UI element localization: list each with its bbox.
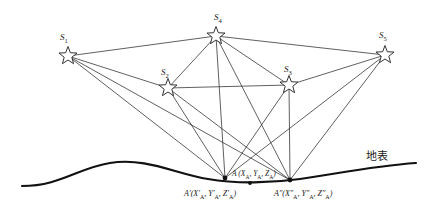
station-label-subscript: 3 [289, 69, 292, 76]
station-label-s3: S3 [284, 65, 292, 76]
gp-head: A″(X″ [274, 189, 293, 198]
station-label-subscript: 4 [219, 17, 222, 24]
sight-line [216, 36, 225, 178]
station-label-s4: S4 [214, 13, 222, 24]
sight-line [68, 36, 216, 56]
sight-line [168, 85, 289, 88]
terrain-curve [22, 162, 416, 186]
sight-line [216, 36, 385, 55]
gp-tail: ) [273, 169, 276, 178]
station-label-s2: S2 [161, 68, 169, 79]
station-label-subscript: 1 [65, 37, 68, 44]
sight-line [68, 56, 225, 178]
ground-point-marker-a-double-prime [288, 178, 293, 183]
ground-point-label-a-point: A (XA, YA, ZA) [232, 170, 276, 180]
station-label-s1: S1 [60, 33, 68, 44]
sight-line [168, 36, 216, 88]
gp-mid-y: , Y′ [204, 189, 214, 198]
gp-tail: ) [330, 189, 333, 198]
station-label-subscript: 5 [384, 35, 387, 42]
sight-line [289, 55, 385, 85]
gp-mid-z: , Z″ [314, 189, 326, 198]
diagram-canvas: S1S2S3S4S5A′(X′A, Y′A, Z′A)A″(X″A, Y″A, … [0, 0, 438, 219]
gp-head: A′(X′ [184, 189, 200, 198]
ground-point-marker-a-point [248, 181, 252, 185]
sight-line [68, 56, 290, 180]
station-label-subscript: 2 [166, 72, 169, 79]
sight-line [168, 88, 290, 180]
station-label-s5: S5 [379, 31, 387, 42]
ground-point-label-a-prime: A′(X′A, Y′A, Z′A) [184, 190, 236, 200]
sight-line [216, 36, 290, 180]
sight-line [68, 56, 168, 88]
ground-point-marker-a-prime [223, 176, 228, 181]
sight-line [225, 55, 385, 178]
gp-mid-z: , Z′ [219, 189, 229, 198]
sight-line [289, 85, 290, 180]
ground-surface-annotation: 地表 [366, 151, 388, 162]
gp-tail: ) [233, 189, 236, 198]
ground-point-label-a-double-prime: A″(X″A, Y″A, Z″A) [274, 190, 332, 200]
sight-line [168, 88, 225, 178]
sight-line [225, 85, 289, 178]
gp-mid-y: , Y″ [297, 189, 309, 198]
gp-head: A (X [232, 169, 245, 178]
sight-line-layer [68, 36, 385, 180]
